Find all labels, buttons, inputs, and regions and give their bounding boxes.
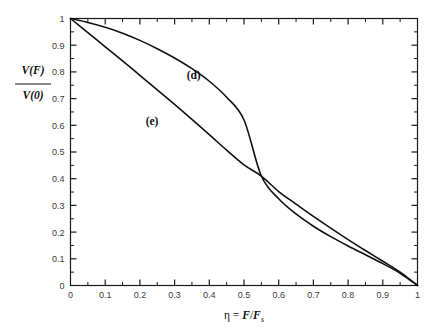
y-tick-label: 0.5: [52, 147, 65, 157]
y-tick-label: 0.3: [52, 201, 65, 211]
y-tick-label: 0.9: [52, 41, 65, 51]
y-axis-numerator: V(F): [21, 64, 44, 77]
y-tick-label: 0.8: [52, 67, 65, 77]
x-tick-label: 0: [68, 290, 73, 300]
x-tick-label: 0.8: [342, 290, 355, 300]
x-tick-label: 0.5: [238, 290, 251, 300]
x-tick-label: 0.7: [307, 290, 320, 300]
x-tick-label: 1: [415, 290, 420, 300]
y-tick-label: 1: [59, 14, 64, 24]
curve-label: (e): [146, 115, 159, 128]
y-tick-label: 0: [59, 281, 64, 291]
y-tick-label: 0.6: [52, 121, 65, 131]
x-tick-label: 0.3: [168, 290, 181, 300]
figure-container: 00.10.20.30.40.50.60.70.80.91 00.10.20.3…: [0, 0, 440, 329]
x-tick-label: 0.4: [203, 290, 216, 300]
y-tick-label: 0.2: [52, 228, 65, 238]
curve-label: (d): [187, 69, 201, 82]
x-tick-label: 0.9: [377, 290, 390, 300]
x-tick-label: 0.6: [272, 290, 285, 300]
y-tick-label: 0.4: [52, 174, 65, 184]
y-tick-label: 0.1: [52, 254, 65, 264]
x-tick-label: 0.1: [99, 290, 112, 300]
y-tick-label: 0.7: [52, 94, 65, 104]
y-axis-denominator: V(0): [22, 89, 43, 102]
chart-background: [0, 0, 440, 329]
x-tick-label: 0.2: [134, 290, 147, 300]
chart-svg: 00.10.20.30.40.50.60.70.80.91 00.10.20.3…: [0, 0, 440, 329]
